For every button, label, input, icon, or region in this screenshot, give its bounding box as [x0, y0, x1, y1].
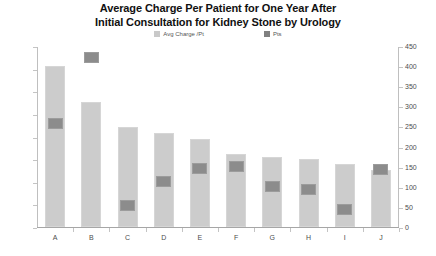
x-axis-category-label: H — [290, 234, 326, 241]
bar-pts[interactable] — [120, 200, 135, 211]
legend-label-pts: Pts — [273, 31, 282, 37]
bar-pts[interactable] — [229, 161, 244, 172]
y-axis-right-tick-label: 200 — [405, 144, 436, 151]
y-axis-right-tick-label: 450 — [405, 43, 436, 50]
x-axis-category-label: D — [146, 234, 182, 241]
x-axis-category-label: J — [363, 234, 399, 241]
legend-item-avg-charge[interactable]: Avg Charge /Pt — [154, 31, 204, 37]
bar-avg-charge[interactable] — [118, 127, 138, 227]
y-axis-left-tick — [33, 183, 37, 184]
y-axis-right-line — [398, 47, 399, 228]
y-axis-right-tick — [399, 188, 403, 189]
bar-avg-charge[interactable] — [335, 164, 355, 227]
y-axis-left-tick — [33, 228, 37, 229]
x-axis-tick — [146, 228, 147, 232]
y-axis-right-tick-label: 50 — [405, 204, 436, 211]
bar-pts[interactable] — [156, 176, 171, 187]
y-axis-left-tick — [33, 138, 37, 139]
legend-label-avg-charge: Avg Charge /Pt — [163, 31, 204, 37]
x-axis-category-label: B — [73, 234, 109, 241]
x-axis-category-label: E — [182, 234, 218, 241]
plot-area: 0200040006000800010000120001400016000050… — [37, 47, 399, 228]
y-axis-right-tick-label: 400 — [405, 63, 436, 70]
legend-swatch-icon-pts — [264, 31, 270, 37]
chart-title: Average Charge Per Patient for One Year … — [0, 2, 436, 29]
y-axis-right-tick — [399, 148, 403, 149]
y-axis-left-line — [37, 47, 38, 228]
x-axis-tick — [182, 228, 183, 232]
x-axis-category-label: G — [254, 234, 290, 241]
bar-avg-charge[interactable] — [81, 102, 101, 227]
x-axis-category-label: F — [218, 234, 254, 241]
bar-pts[interactable] — [48, 118, 63, 129]
bar-pts[interactable] — [301, 184, 316, 195]
chart-title-line-2: Initial Consultation for Kidney Stone by… — [0, 16, 436, 30]
x-axis-category-label: C — [109, 234, 145, 241]
chart-legend: Avg Charge /Pt Pts — [0, 31, 436, 37]
bar-pts[interactable] — [337, 204, 352, 215]
x-axis-tick — [218, 228, 219, 232]
legend-swatch-icon-avg-charge — [154, 31, 160, 37]
y-axis-right-tick — [399, 208, 403, 209]
y-axis-right-tick — [399, 67, 403, 68]
y-axis-right-tick — [399, 168, 403, 169]
y-axis-right-tick — [399, 127, 403, 128]
y-axis-left-tick — [33, 47, 37, 48]
y-axis-right-tick-label: 0 — [405, 224, 436, 231]
y-axis-right-tick — [399, 87, 403, 88]
bar-pts[interactable] — [192, 163, 207, 174]
x-axis-tick — [363, 228, 364, 232]
chart-container: Average Charge Per Patient for One Year … — [0, 0, 436, 256]
x-axis-tick — [109, 228, 110, 232]
y-axis-right-tick-label: 300 — [405, 103, 436, 110]
x-axis-tick — [399, 228, 400, 232]
bar-pts[interactable] — [84, 52, 99, 63]
x-axis-category-label: I — [327, 234, 363, 241]
y-axis-right-tick-label: 350 — [405, 83, 436, 90]
y-axis-right-tick-label: 100 — [405, 184, 436, 191]
y-axis-left-tick — [33, 115, 37, 116]
x-axis-tick — [290, 228, 291, 232]
bar-avg-charge[interactable] — [190, 139, 210, 227]
x-axis-tick — [254, 228, 255, 232]
y-axis-right-tick-label: 150 — [405, 164, 436, 171]
x-axis-tick — [327, 228, 328, 232]
y-axis-left-tick — [33, 92, 37, 93]
legend-item-pts[interactable]: Pts — [264, 31, 282, 37]
x-axis-tick — [73, 228, 74, 232]
y-axis-right-tick — [399, 107, 403, 108]
bar-pts[interactable] — [265, 181, 280, 192]
y-axis-left-tick — [33, 205, 37, 206]
x-axis-category-label: A — [37, 234, 73, 241]
bar-avg-charge[interactable] — [45, 66, 65, 227]
bar-avg-charge[interactable] — [371, 170, 391, 227]
y-axis-right-tick-label: 250 — [405, 123, 436, 130]
y-axis-right-tick — [399, 47, 403, 48]
y-axis-left-tick — [33, 70, 37, 71]
bar-pts[interactable] — [373, 164, 388, 175]
y-axis-left-tick — [33, 160, 37, 161]
chart-title-line-1: Average Charge Per Patient for One Year … — [0, 2, 436, 16]
